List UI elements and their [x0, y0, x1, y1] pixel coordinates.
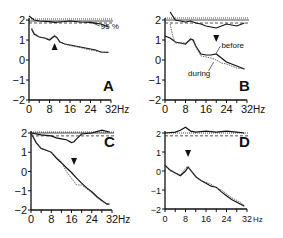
y-tick-label: −2	[12, 94, 25, 106]
y-tick-label: 1	[156, 148, 161, 158]
y-tick-label: 0	[21, 166, 27, 178]
panel-c: 210−1−208162432HzC	[14, 127, 130, 225]
y-tick-label: −1	[151, 186, 161, 196]
x-tick-label: 0	[26, 103, 32, 115]
y-tick-label: 0	[19, 54, 25, 66]
legend-before: before	[221, 41, 244, 50]
series-before	[165, 165, 244, 206]
x-tick-label: 16	[201, 214, 211, 224]
y-tick-label: 2	[156, 129, 161, 139]
y-tick-label: −1	[12, 74, 25, 86]
x-tick-label: 8	[48, 213, 54, 225]
y-tick-label: −1	[14, 185, 27, 197]
series-before	[32, 29, 109, 52]
arrow-up-icon	[52, 43, 58, 50]
y-tick-label: −2	[14, 204, 27, 216]
x-tick-label: 32	[241, 103, 253, 115]
x-tick-label: 32	[242, 214, 252, 224]
y-tick-label: 1	[19, 34, 25, 46]
legend-during: during	[188, 69, 210, 78]
series-during	[32, 28, 109, 52]
y-tick-label: 1	[21, 146, 27, 158]
x-axis-unit: Hz	[253, 215, 263, 224]
x-tick-label: 0	[162, 214, 167, 224]
y-tick-label: 2	[19, 14, 25, 26]
confidence-label: 95 %	[101, 22, 119, 31]
y-tick-label: 1	[155, 34, 161, 46]
x-tick-label: 32	[105, 103, 117, 115]
x-tick-label: 24	[221, 214, 231, 224]
y-tick-label: 0	[156, 167, 161, 177]
y-tick-label: −2	[151, 205, 161, 215]
arrow-down-icon	[185, 150, 191, 157]
y-tick-label: 0	[155, 54, 161, 66]
panel-label: A	[103, 77, 114, 94]
x-tick-label: 0	[162, 103, 168, 115]
x-tick-label: 8	[182, 103, 188, 115]
arrow-down-icon	[71, 158, 77, 165]
x-tick-label: 8	[46, 103, 52, 115]
x-tick-label: 24	[86, 213, 98, 225]
x-tick-label: 16	[65, 213, 77, 225]
y-tick-label: −1	[148, 74, 161, 86]
series-before	[31, 133, 110, 204]
x-tick-label: 16	[200, 103, 212, 115]
panel-label: C	[104, 133, 115, 150]
panel-label: B	[239, 77, 250, 94]
figure: 210−1−208162432Hz95 %A210−1−208162432Hzb…	[0, 0, 283, 238]
y-tick-label: −2	[148, 94, 161, 106]
x-tick-label: 0	[28, 213, 34, 225]
panel-a: 210−1−208162432Hz95 %A	[12, 14, 129, 115]
panel-d: 210−1−208162432HzD	[151, 127, 263, 224]
x-tick-label: 8	[183, 214, 188, 224]
arrow-down-icon	[213, 35, 219, 42]
x-tick-label: 16	[64, 103, 76, 115]
series-upper-trace	[29, 16, 108, 27]
x-tick-label: 24	[220, 103, 232, 115]
x-axis-unit: Hz	[253, 104, 265, 115]
series-upper-trace	[165, 127, 244, 133]
x-axis-unit: Hz	[118, 214, 130, 225]
x-tick-label: 24	[84, 103, 96, 115]
series-during	[165, 165, 244, 205]
x-axis-unit: Hz	[117, 104, 129, 115]
panel-b: 210−1−208162432HzbeforeduringB	[148, 12, 265, 115]
y-tick-label: 2	[21, 127, 27, 139]
y-tick-label: 2	[155, 14, 161, 26]
x-tick-label: 32	[106, 213, 118, 225]
panel-label: D	[239, 133, 250, 150]
series-during	[31, 133, 110, 204]
